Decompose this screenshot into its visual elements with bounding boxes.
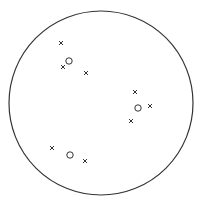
centroid-marker (135, 105, 141, 111)
cluster-right (129, 90, 152, 123)
centroid-marker (67, 152, 73, 158)
point-marker (50, 146, 54, 150)
point-marker (129, 119, 133, 123)
point-marker (83, 159, 87, 163)
cluster-bottom-left (50, 146, 87, 163)
centroid-marker (66, 58, 72, 64)
point-marker (61, 65, 65, 69)
cluster-diagram (0, 0, 207, 206)
point-marker (148, 104, 152, 108)
point-marker (84, 71, 88, 75)
boundary-circle (9, 11, 193, 195)
point-marker (59, 41, 63, 45)
clusters-group (50, 41, 152, 163)
cluster-top-left (59, 41, 88, 75)
point-marker (133, 90, 137, 94)
